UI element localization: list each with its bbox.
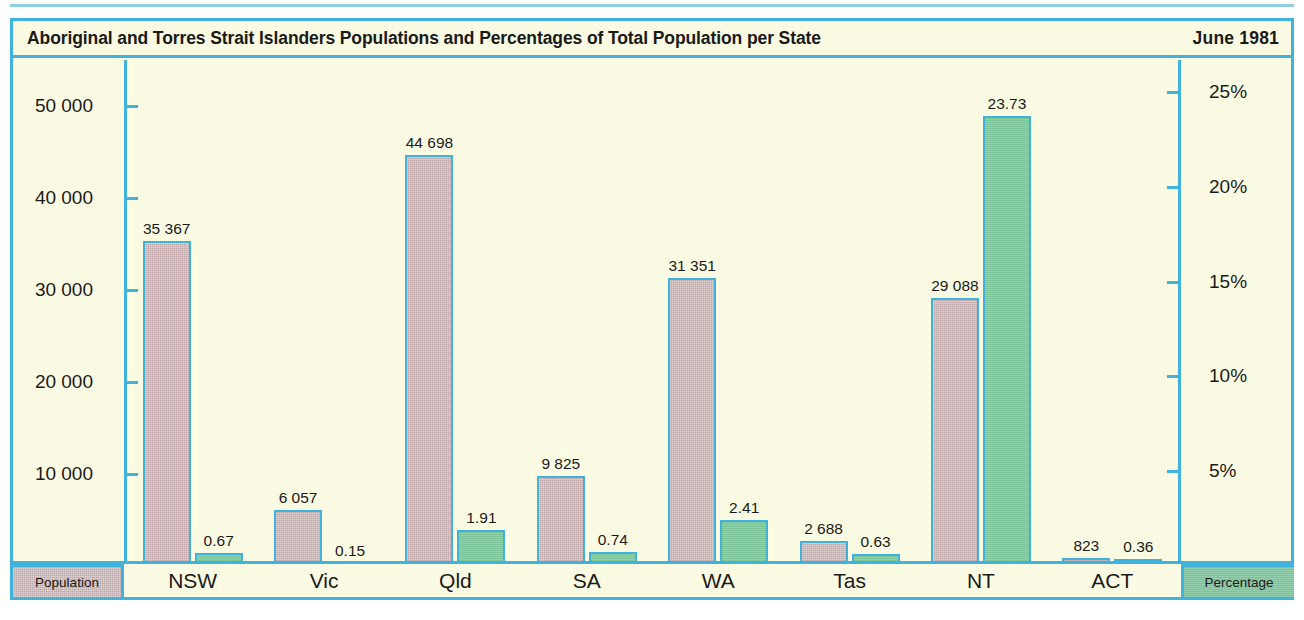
bar-population-nsw[interactable]: [143, 241, 191, 566]
category-axis-strip: NSWVicQldSAWATasNTACT Population Percent…: [13, 561, 1291, 597]
bar-label-percentage-wa: 2.41: [729, 499, 759, 517]
left-tick-label: 30 000: [35, 279, 93, 301]
bar-label-percentage-vic: 0.15: [335, 542, 365, 560]
bar-population-nt[interactable]: [931, 298, 979, 566]
legend-percentage-label: Percentage: [1204, 575, 1273, 590]
bar-label-population-tas: 2 688: [804, 520, 843, 538]
category-label-act: ACT: [1091, 569, 1133, 593]
bar-label-percentage-act: 0.36: [1123, 538, 1153, 556]
category-label-sa: SA: [573, 569, 601, 593]
bar-label-population-qld: 44 698: [406, 134, 453, 152]
bar-percentage-nt[interactable]: [983, 116, 1031, 566]
legend-population: Population: [13, 564, 124, 597]
bar-population-qld[interactable]: [405, 155, 453, 566]
bar-label-population-nt: 29 088: [931, 277, 978, 295]
legend-population-label: Population: [35, 575, 99, 590]
bar-population-wa[interactable]: [668, 278, 716, 566]
category-label-tas: Tas: [833, 569, 866, 593]
bar-label-population-act: 823: [1073, 537, 1099, 555]
bar-label-percentage-tas: 0.63: [860, 533, 890, 551]
bar-label-percentage-sa: 0.74: [598, 531, 628, 549]
bar-label-population-vic: 6 057: [279, 489, 318, 507]
bar-percentage-wa[interactable]: [720, 520, 768, 566]
top-rule: [10, 4, 1294, 7]
bar-label-percentage-qld: 1.91: [466, 509, 496, 527]
chart-title-bar: Aboriginal and Torres Strait Islanders P…: [13, 21, 1291, 58]
left-tick-label: 20 000: [35, 371, 93, 393]
left-tick-label: 40 000: [35, 187, 93, 209]
bar-label-population-wa: 31 351: [668, 257, 715, 275]
bar-group: 35 3670.676 0570.1544 6981.919 8250.7431…: [127, 58, 1291, 597]
bar-label-percentage-nsw: 0.67: [204, 532, 234, 550]
page-title: Aboriginal and Torres Strait Islanders P…: [27, 28, 821, 49]
category-label-qld: Qld: [439, 569, 472, 593]
chart-figure: Aboriginal and Torres Strait Islanders P…: [10, 18, 1294, 600]
bar-population-vic[interactable]: [274, 510, 322, 566]
bar-population-sa[interactable]: [537, 476, 585, 566]
bar-label-percentage-nt: 23.73: [988, 95, 1027, 113]
category-label-wa: WA: [702, 569, 735, 593]
left-tick-label: 50 000: [35, 95, 93, 117]
category-label-nt: NT: [967, 569, 995, 593]
plot-area: 10 00020 00030 00040 00050 000 5%10%15%2…: [13, 58, 1291, 597]
category-label-nsw: NSW: [168, 569, 217, 593]
bar-label-population-nsw: 35 367: [143, 220, 190, 238]
legend-percentage: Percentage: [1181, 564, 1294, 597]
chart-date-label: June 1981: [1193, 28, 1279, 49]
category-label-vic: Vic: [310, 569, 339, 593]
left-tick-label: 10 000: [35, 463, 93, 485]
bar-label-population-sa: 9 825: [541, 455, 580, 473]
